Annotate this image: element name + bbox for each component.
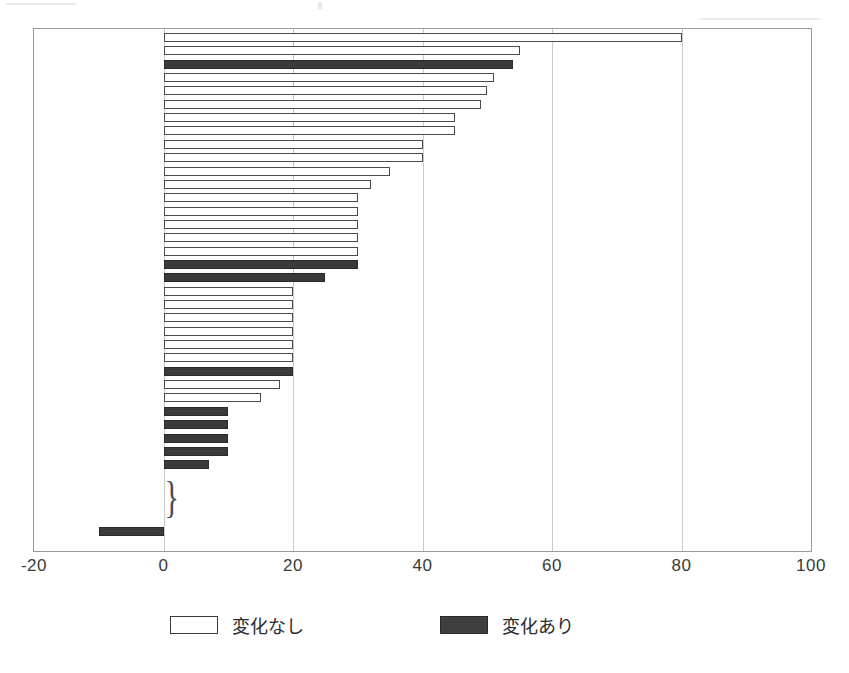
bar-33	[164, 460, 209, 469]
bar-26	[164, 367, 294, 376]
bar-28	[164, 393, 261, 402]
bars-layer	[34, 29, 811, 551]
legend-swatch-nochange-icon	[170, 616, 218, 634]
bar-09	[164, 140, 423, 149]
bar-21	[164, 300, 294, 309]
bar-01	[164, 33, 682, 42]
legend-label-nochange: 変化なし	[232, 612, 304, 638]
bar-30	[164, 420, 229, 429]
x-tick-label-40: 40	[413, 556, 433, 576]
bar-07	[164, 113, 455, 122]
bar-24	[164, 340, 294, 349]
scan-artifact	[318, 2, 322, 9]
bar-19	[164, 273, 326, 282]
bar-03	[164, 60, 514, 69]
scan-artifact	[6, 3, 76, 5]
x-tick-label--20: -20	[21, 556, 47, 576]
bar-20	[164, 287, 294, 296]
bar-11	[164, 167, 391, 176]
bar-22	[164, 313, 294, 322]
bar-chart-figure: } -20020406080100 変化なし 変化あり	[0, 0, 849, 673]
bar-13	[164, 193, 358, 202]
zero-group-brace-annotation: }	[165, 475, 179, 519]
legend-swatch-changed-icon	[440, 616, 488, 634]
x-tick-label-60: 60	[542, 556, 562, 576]
bar-27	[164, 380, 281, 389]
legend-item-nochange: 変化なし	[170, 612, 304, 638]
bar-23	[164, 327, 294, 336]
chart-legend: 変化なし 変化あり	[170, 612, 630, 642]
bar-04	[164, 73, 494, 82]
bar-29	[164, 407, 229, 416]
x-tick-label-100: 100	[796, 556, 826, 576]
bar-38	[99, 527, 164, 536]
bar-25	[164, 353, 294, 362]
bar-17	[164, 247, 358, 256]
x-tick-label-80: 80	[672, 556, 692, 576]
bar-12	[164, 180, 371, 189]
bar-02	[164, 46, 520, 55]
x-tick-label-0: 0	[159, 556, 169, 576]
bar-15	[164, 220, 358, 229]
bar-14	[164, 207, 358, 216]
gridline-100	[811, 29, 812, 551]
bar-16	[164, 233, 358, 242]
legend-label-changed: 変化あり	[502, 612, 574, 638]
bar-31	[164, 434, 229, 443]
bar-32	[164, 447, 229, 456]
x-tick-label-20: 20	[283, 556, 303, 576]
bar-18	[164, 260, 358, 269]
x-axis-tick-labels: -20020406080100	[33, 556, 812, 582]
legend-item-changed: 変化あり	[440, 612, 574, 638]
plot-area: }	[33, 28, 812, 552]
bar-05	[164, 86, 488, 95]
bar-10	[164, 153, 423, 162]
bar-08	[164, 126, 455, 135]
bar-06	[164, 100, 481, 109]
scan-artifact	[700, 18, 820, 20]
